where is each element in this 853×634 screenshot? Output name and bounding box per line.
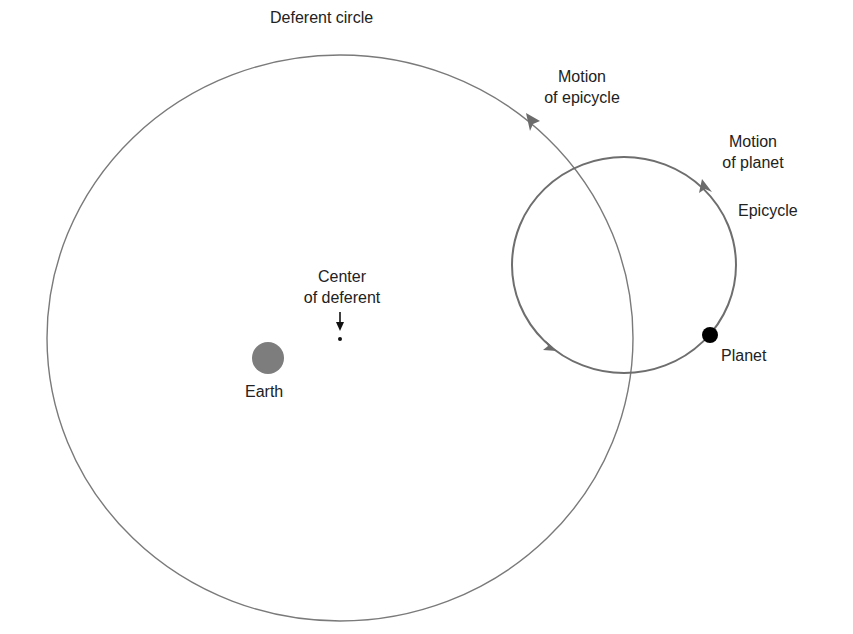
motion-of-epicycle-line2: of epicycle	[527, 87, 637, 108]
motion-of-epicycle-line1: Motion	[527, 66, 637, 87]
deferent-circle-label: Deferent circle	[270, 7, 373, 28]
motion-of-planet-label: Motion of planet	[698, 131, 808, 173]
center-pointer-arrow-icon	[336, 322, 344, 331]
planet-label: Planet	[721, 345, 766, 366]
center-of-deferent-line1: Center	[287, 266, 397, 287]
center-of-deferent-line2: of deferent	[287, 287, 397, 308]
deferent-motion-arrow-icon	[526, 113, 540, 131]
earth-icon	[252, 342, 284, 374]
center-point	[338, 337, 342, 341]
planet-icon	[702, 327, 718, 343]
motion-of-planet-line2: of planet	[698, 152, 808, 173]
motion-of-epicycle-label: Motion of epicycle	[527, 66, 637, 108]
motion-of-planet-line1: Motion	[698, 131, 808, 152]
earth-label: Earth	[245, 381, 283, 402]
epicycle-label: Epicycle	[738, 200, 798, 221]
center-of-deferent-label: Center of deferent	[287, 266, 397, 308]
epicycle-diagram	[0, 0, 853, 634]
